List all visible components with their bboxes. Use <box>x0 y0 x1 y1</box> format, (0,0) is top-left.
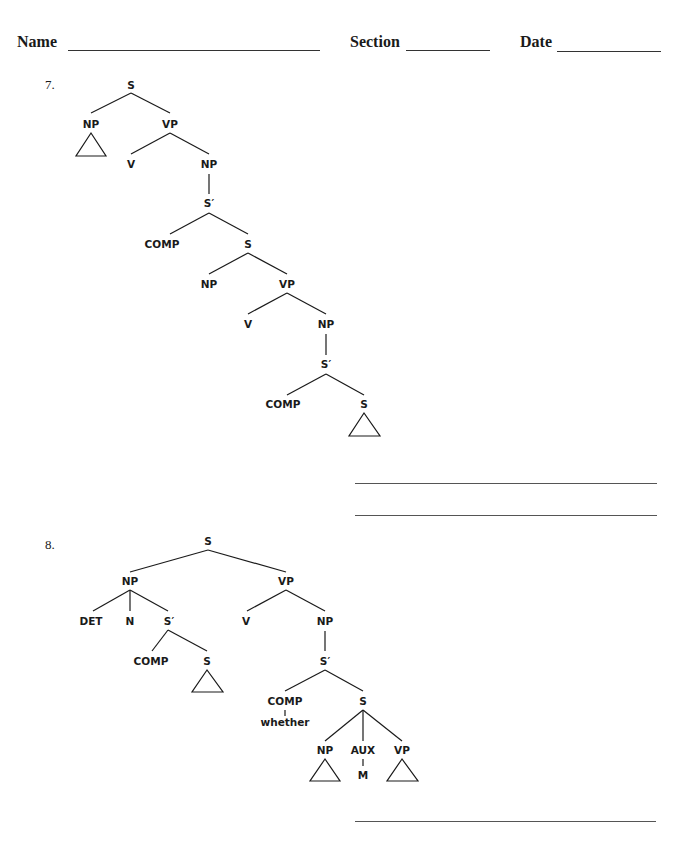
node-comp: COMP <box>268 695 303 707</box>
node-vp: VP <box>394 744 410 756</box>
node-np: NP <box>317 615 334 627</box>
node-s: S <box>360 398 368 410</box>
tree-7: S NP VP V NP S′ COMP S NP VP V NP S′ COM… <box>76 79 380 436</box>
node-np: NP <box>318 318 335 330</box>
node-s-bar: S′ <box>321 358 332 370</box>
node-comp: COMP <box>266 398 301 410</box>
node-n: N <box>126 615 135 627</box>
node-np: NP <box>317 744 334 756</box>
answer-line-7-2[interactable] <box>355 515 657 516</box>
node-np: NP <box>201 278 218 290</box>
triangle-icon <box>349 413 380 436</box>
node-vp: VP <box>279 278 295 290</box>
node-s: S <box>204 535 212 547</box>
node-s-bar: S′ <box>320 655 331 667</box>
node-s-bar: S′ <box>204 197 215 209</box>
node-s: S <box>359 695 367 707</box>
tree-8: S NP VP DET N S′ COMP S V NP S′ COMP whe… <box>79 535 418 781</box>
triangle-icon <box>387 759 418 781</box>
node-v: V <box>242 615 251 627</box>
node-np: NP <box>83 118 100 130</box>
node-s: S <box>244 238 252 250</box>
node-np: NP <box>122 575 139 587</box>
triangle-icon <box>192 670 223 692</box>
answer-line-7-1[interactable] <box>355 483 657 484</box>
node-np: NP <box>201 158 218 170</box>
node-whether: whether <box>260 716 310 728</box>
node-v: V <box>244 318 253 330</box>
node-s-bar: S′ <box>164 615 175 627</box>
node-v: V <box>127 158 136 170</box>
node-aux: AUX <box>351 744 375 756</box>
node-vp: VP <box>278 575 294 587</box>
node-comp: COMP <box>134 655 169 667</box>
node-det: DET <box>79 615 103 627</box>
syntax-tree-diagrams: S NP VP V NP S′ COMP S NP VP V NP S′ COM… <box>0 0 687 851</box>
node-s: S <box>127 79 135 91</box>
answer-line-8-1[interactable] <box>355 821 656 822</box>
node-s: S <box>203 655 211 667</box>
node-m: M <box>358 769 368 781</box>
triangle-icon <box>76 133 106 156</box>
node-vp: VP <box>162 118 178 130</box>
triangle-icon <box>310 759 340 781</box>
node-comp: COMP <box>145 238 180 250</box>
